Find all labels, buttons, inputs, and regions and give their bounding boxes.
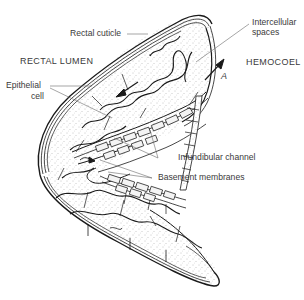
basement-membranes-label: Basement membranes <box>158 173 244 182</box>
infundibular-channel-label: Infundibular channel <box>178 153 255 162</box>
epithelial-cell-label-line2: cell <box>31 92 44 101</box>
intercellular-spaces-label-line2: spaces <box>252 28 279 37</box>
epithelial-cell-label-line1: Epithelial <box>6 81 41 90</box>
point-a-label: A <box>221 72 227 81</box>
rectal-pad-diagram <box>0 0 304 300</box>
rectal-lumen-label: RECTAL LUMEN <box>20 57 93 66</box>
hemocoel-label: HEMOCOEL <box>246 58 301 67</box>
intercellular-spaces-label-line1: Intercellular <box>252 18 296 27</box>
rectal-cuticle-label: Rectal cuticle <box>70 29 121 38</box>
